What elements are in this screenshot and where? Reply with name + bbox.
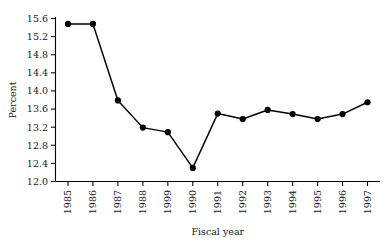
x-tick-label: 1990 [187,190,198,214]
y-tick-label: 14.4 [27,67,48,78]
x-tick-label: 1991 [212,190,223,214]
x-tick-label: 1987 [112,190,123,214]
data-point-marker [265,107,271,113]
x-tick-label: 1997 [362,190,373,214]
data-point-marker [90,21,96,27]
data-point-marker [215,110,221,116]
y-tick-label: 12.0 [27,176,48,187]
y-tick-label: 14.8 [27,49,48,60]
x-tick-label: 1988 [137,190,148,214]
data-point-marker [115,97,121,103]
data-point-marker [140,125,146,131]
data-point-marker [240,116,246,122]
y-tick-label: 14.0 [27,85,48,96]
x-tick-label: 1985 [62,190,73,214]
line-chart: 12.012.412.813.213.614.014.414.815.215.6… [0,0,388,243]
data-point-marker [165,129,171,135]
x-tick-label: 1986 [87,190,98,214]
x-axis-title: Fiscal year [191,226,244,237]
x-tick-label: 1993 [262,190,273,214]
chart-canvas: 12.012.412.813.213.614.014.414.815.215.6… [0,0,388,243]
data-point-marker [290,111,296,117]
x-tick-label: 1995 [312,190,323,214]
x-tick-label: 1996 [337,190,348,214]
data-point-marker [190,165,196,171]
y-tick-label: 15.6 [27,13,48,24]
data-point-marker [315,116,321,122]
y-axis-title: Percent [7,81,18,118]
y-tick-label: 12.8 [27,140,48,151]
data-point-marker [364,99,370,105]
data-point-marker [339,111,345,117]
data-point-marker [65,21,71,27]
y-tick-label: 13.6 [27,103,48,114]
y-tick-label: 13.2 [27,122,48,133]
x-tick-label: 1992 [237,190,248,214]
x-tick-label: 1994 [287,190,298,214]
x-tick-label: 1999 [162,190,173,214]
y-tick-label: 12.4 [27,158,48,169]
y-tick-label: 15.2 [27,31,48,42]
